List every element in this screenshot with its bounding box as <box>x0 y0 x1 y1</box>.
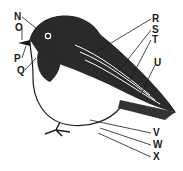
label-w: W <box>153 140 162 150</box>
label-t: T <box>152 35 158 45</box>
label-u: U <box>154 58 161 68</box>
label-n: N <box>14 12 21 22</box>
label-v: V <box>153 128 160 138</box>
bird-diagram: N O P Q R S T U V W X <box>0 0 183 171</box>
label-o: O <box>15 23 23 33</box>
label-q: Q <box>17 66 25 76</box>
label-r: R <box>152 14 159 24</box>
label-x: X <box>153 152 160 162</box>
label-p: P <box>14 54 21 64</box>
